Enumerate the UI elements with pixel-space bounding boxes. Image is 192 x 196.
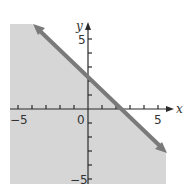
tick-label-x-pos5: 5 (154, 113, 162, 127)
y-axis-arrow-icon (85, 22, 91, 30)
tick-label-origin: 0 (77, 113, 85, 127)
tick-label-y-pos5: 5 (78, 33, 86, 47)
inequality-graph: x y −5 0 5 5 −5 (0, 0, 192, 196)
tick-label-y-neg5: −5 (70, 173, 88, 187)
x-axis-arrow-icon (166, 106, 174, 112)
y-axis-label: y (75, 19, 83, 33)
tick-label-x-neg5: −5 (10, 113, 28, 127)
x-axis-label: x (176, 102, 183, 116)
